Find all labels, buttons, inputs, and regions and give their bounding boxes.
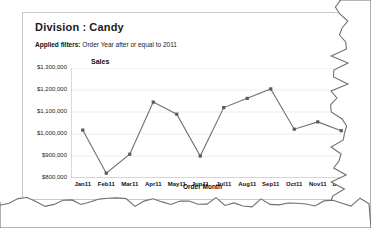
data-point-marker[interactable] <box>246 97 249 100</box>
report-card: Division:Candy Applied filters: Order Ye… <box>22 12 352 200</box>
y-axis-title: Sales <box>91 58 109 65</box>
data-point-marker[interactable] <box>175 113 178 116</box>
x-tick-label: Oct11 <box>282 181 306 187</box>
data-point-marker[interactable] <box>128 153 131 156</box>
x-tick-label: Apr11 <box>141 181 165 187</box>
x-tick-label: Jan11 <box>71 181 95 187</box>
series-line-sales <box>83 89 342 173</box>
applied-filters-label: Applied filters: <box>35 41 81 48</box>
x-tick-label: Aug11 <box>235 181 259 187</box>
x-tick-label: Mar11 <box>118 181 142 187</box>
screenshot-root: Division:Candy Applied filters: Order Ye… <box>0 0 371 228</box>
data-point-marker[interactable] <box>152 101 155 104</box>
x-axis-title: Order Month <box>183 183 222 190</box>
plot-area <box>71 68 352 178</box>
page-title: Division:Candy <box>35 21 124 33</box>
division-value: Candy <box>89 21 124 33</box>
data-point-marker[interactable] <box>269 87 272 90</box>
y-tick-label: $800,000 <box>23 174 67 180</box>
applied-filters-value: Order Year after or equal to 2011 <box>82 41 177 48</box>
division-label: Division <box>35 21 79 33</box>
data-point-marker[interactable] <box>199 154 202 157</box>
x-tick-label: Feb11 <box>94 181 118 187</box>
y-tick-label: $1,100,000 <box>23 108 67 114</box>
data-point-marker[interactable] <box>340 129 343 132</box>
data-point-marker[interactable] <box>105 172 108 175</box>
x-tick-label: Nov11 <box>306 181 330 187</box>
data-point-marker[interactable] <box>316 120 319 123</box>
y-tick-label: $1,300,000 <box>23 64 67 70</box>
y-tick-label: $1,200,000 <box>23 86 67 92</box>
line-chart-svg <box>71 68 352 178</box>
y-tick-label: $900,000 <box>23 152 67 158</box>
data-point-marker[interactable] <box>293 128 296 131</box>
title-separator: : <box>79 21 89 33</box>
data-point-marker[interactable] <box>81 128 84 131</box>
applied-filters: Applied filters: Order Year after or equ… <box>35 41 177 48</box>
x-tick-label: Dec11 <box>329 181 352 187</box>
data-point-marker[interactable] <box>222 106 225 109</box>
y-tick-label: $1,000,000 <box>23 130 67 136</box>
x-tick-label: Sep11 <box>259 181 283 187</box>
